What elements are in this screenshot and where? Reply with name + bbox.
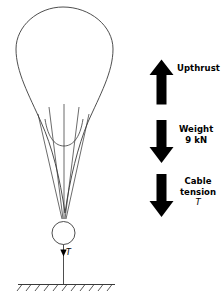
payload-circle — [52, 222, 75, 245]
diagram-canvas — [0, 0, 222, 303]
figure-caption — [3, 295, 83, 303]
weight-label: Weight 9 kN — [179, 124, 213, 145]
weight-arrow-icon — [150, 120, 174, 163]
free-body-diagram: Upthrust Weight 9 kN Cable tension T T — [0, 0, 222, 303]
upthrust-label-text: Upthrust — [177, 63, 220, 74]
upthrust-arrow-icon — [150, 60, 174, 105]
cable-force-symbol-label: T — [66, 248, 71, 257]
balloon-envelope — [16, 7, 113, 213]
weight-label-text: Weight — [179, 124, 213, 135]
ground-hatching — [17, 285, 112, 292]
upthrust-label: Upthrust — [177, 63, 220, 74]
cable-tension-label-line1: Cable — [180, 176, 216, 187]
weight-value-text: 9 kN — [179, 135, 213, 146]
cable-tension-label-line2: tension — [180, 187, 216, 198]
cable-tension-label: Cable tension T — [180, 176, 216, 208]
cable-tension-arrow-icon — [150, 174, 174, 217]
cable-tension-symbol: T — [180, 197, 216, 208]
